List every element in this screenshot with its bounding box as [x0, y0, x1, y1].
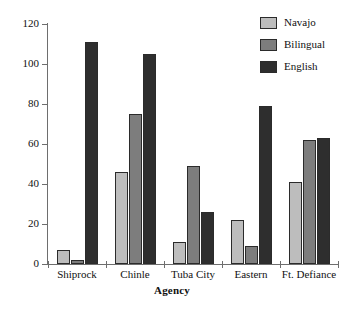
bar	[57, 250, 70, 264]
legend-swatch-english	[260, 61, 277, 73]
bar	[71, 260, 84, 264]
y-tick-label: 0	[1, 258, 39, 268]
x-tick	[280, 261, 281, 268]
y-tick	[42, 224, 48, 225]
x-tick	[222, 261, 223, 268]
bar	[173, 242, 186, 264]
x-tick	[106, 261, 107, 268]
x-tick	[338, 261, 339, 268]
y-tick-label: 120	[1, 18, 39, 28]
legend-label-english: English	[284, 60, 318, 72]
bar	[143, 54, 156, 264]
y-tick-label: 60	[1, 138, 39, 148]
legend-label-bilingual: Bilingual	[284, 38, 325, 50]
x-axis-line	[47, 264, 338, 265]
y-tick-label: 40	[1, 178, 39, 188]
bar	[115, 172, 128, 264]
legend-label-navajo: Navajo	[284, 16, 316, 28]
bar	[245, 246, 258, 264]
bar	[129, 114, 142, 264]
y-tick	[42, 24, 48, 25]
y-tick	[42, 104, 48, 105]
legend-swatch-navajo	[260, 17, 277, 29]
y-tick	[42, 144, 48, 145]
x-category-label: Ft. Defiance	[264, 268, 344, 280]
y-tick-label: 100	[1, 58, 39, 68]
bar	[85, 42, 98, 264]
x-tick	[48, 261, 49, 268]
legend-swatch-bilingual	[260, 39, 277, 51]
bar	[231, 220, 244, 264]
bar	[303, 140, 316, 264]
bar-chart: 020406080100120 ShiprockChinleTuba CityE…	[0, 0, 344, 310]
y-tick	[42, 184, 48, 185]
bar	[317, 138, 330, 264]
y-tick-label: 20	[1, 218, 39, 228]
bar	[187, 166, 200, 264]
x-axis-title: Agency	[0, 284, 344, 296]
bar	[289, 182, 302, 264]
bar	[201, 212, 214, 264]
x-tick	[164, 261, 165, 268]
y-tick	[42, 64, 48, 65]
y-tick-label: 80	[1, 98, 39, 108]
bar	[259, 106, 272, 264]
